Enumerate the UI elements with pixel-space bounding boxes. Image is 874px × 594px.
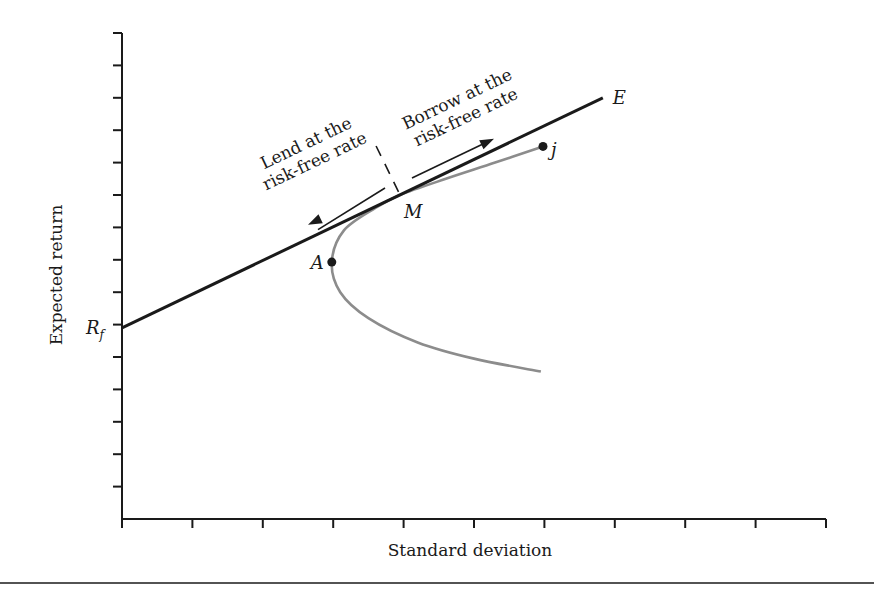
point-label-j: j — [547, 139, 557, 160]
lend-borrow-divider — [376, 146, 400, 195]
point-label-a: A — [309, 252, 324, 273]
point-label-e: E — [612, 87, 626, 108]
point-marker-j — [538, 142, 547, 151]
lend-arrowhead-icon — [308, 214, 323, 225]
borrow-arrowhead-icon — [479, 139, 494, 150]
lend-annotation: Lend at the risk-free rate — [251, 109, 370, 194]
efficient-frontier-curve — [332, 146, 543, 371]
chart: Lend at the risk-free rate Borrow at the… — [0, 0, 874, 594]
point-label-m: M — [403, 201, 423, 222]
x-axis-ticks — [122, 519, 826, 528]
y-axis-ticks — [113, 33, 122, 487]
y-tick-label-rf: Rf — [85, 317, 107, 342]
x-axis-title: Standard deviation — [388, 540, 553, 560]
borrow-annotation: Borrow at the risk-free rate — [399, 64, 524, 152]
point-marker-a — [327, 258, 336, 267]
y-axis-title: Expected return — [46, 205, 66, 346]
